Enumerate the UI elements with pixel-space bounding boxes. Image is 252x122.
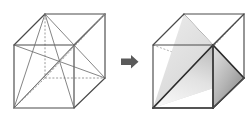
diagonal-front-top-right-to-front-bottom-left <box>14 45 74 108</box>
diagonal-back-top-left-to-front-bottom-left <box>14 14 45 108</box>
edge-front-top-right-to-back-top-right-rc <box>213 14 244 45</box>
right-cube-group <box>153 14 244 108</box>
left-cube-group <box>14 14 105 108</box>
tetra-face-right-dark <box>213 45 244 108</box>
edge-front-top-left-to-back-top-left <box>14 14 45 45</box>
diagonal-right-face-upper <box>74 45 105 78</box>
right-arrow <box>121 55 139 69</box>
diagram-container <box>0 0 252 122</box>
diagonal-edge-overlay-top-right <box>74 14 105 45</box>
cube-tetrahedron-figure <box>0 0 252 122</box>
right-arrow-icon <box>121 55 139 69</box>
edge-front-bottom-right-to-back-bottom-right <box>74 78 105 108</box>
left-cube-diagonals <box>14 14 105 108</box>
